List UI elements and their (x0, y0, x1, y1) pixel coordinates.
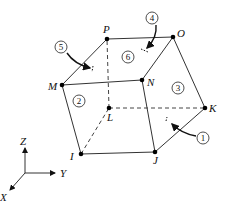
node-p (105, 37, 110, 42)
node-l (107, 106, 112, 111)
svg-text:5: 5 (59, 42, 64, 52)
face-5-marker: 5 (55, 41, 67, 53)
label-n: N (146, 76, 155, 88)
label-p: P (102, 23, 110, 35)
face-3-marker: 3 (172, 82, 184, 94)
label-l: L (106, 111, 113, 123)
y-axis-label: Y (60, 167, 68, 179)
hexahedron-diagram: I J K L M N O P 1 2 3 4 (0, 0, 230, 215)
node-k (203, 106, 208, 111)
label-m: M (47, 80, 58, 92)
coordinate-axes: Z Y X (0, 135, 68, 203)
hidden-edges (81, 39, 205, 154)
svg-text:1: 1 (201, 133, 206, 143)
svg-text:3: 3 (176, 83, 181, 93)
node-m (60, 83, 65, 88)
node-o (171, 35, 176, 40)
svg-text:4: 4 (150, 13, 155, 23)
face-4-marker: 4 (146, 12, 158, 24)
label-j: J (153, 154, 159, 166)
label-k: K (208, 102, 217, 114)
node-n (140, 78, 145, 83)
svg-text:6: 6 (126, 52, 131, 62)
face-2-marker: 2 (73, 95, 85, 107)
face-1-marker: 1 (197, 132, 209, 144)
x-axis-label: X (0, 191, 8, 203)
diagram-canvas: I J K L M N O P 1 2 3 4 (0, 0, 230, 215)
z-axis-label: Z (20, 135, 27, 147)
node-labels: I J K L M N O P (47, 23, 217, 166)
svg-text:2: 2 (77, 96, 82, 106)
face-6-marker: 6 (122, 51, 134, 63)
arrow-face-4-icon (147, 25, 156, 48)
node-i (79, 152, 84, 157)
label-o: O (177, 27, 185, 39)
x-axis-arrow-icon (10, 173, 25, 190)
label-i: I (69, 150, 75, 162)
